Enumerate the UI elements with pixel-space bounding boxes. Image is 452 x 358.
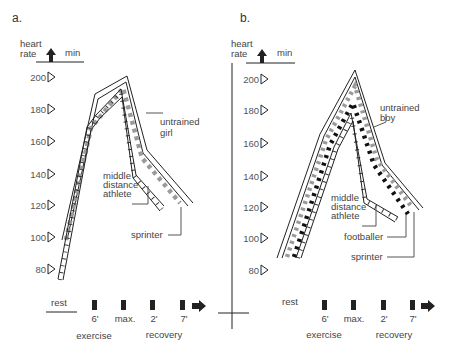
- svg-text:recovery: recovery: [146, 329, 183, 340]
- leader-sprinter-a: [168, 207, 181, 235]
- marker-2min-b: [381, 300, 386, 310]
- tick-marker-icon: [48, 72, 55, 82]
- svg-text:6': 6': [321, 313, 328, 324]
- tick-marker-icon: [261, 105, 268, 115]
- svg-text:max.: max.: [344, 313, 365, 324]
- marker-7min: [180, 300, 185, 310]
- marker-max: [121, 300, 126, 310]
- series-untrained-boy: [277, 70, 423, 258]
- y-ticks: 200 180 160 140 120 100 80: [30, 72, 55, 275]
- label-untrained-girl-2: girl: [160, 127, 173, 138]
- timeline-a: rest 6' max. 2' 7' exercise recovery: [46, 297, 206, 341]
- label-footballer: footballer: [344, 231, 383, 242]
- svg-text:80: 80: [35, 264, 46, 275]
- panel-a: a. heart rate min 200 180 160 140 120 10…: [12, 11, 206, 341]
- tick-marker-icon: [48, 200, 55, 210]
- panel-a-label: a.: [12, 11, 22, 25]
- ylabel-rate: rate: [20, 48, 36, 59]
- svg-text:7': 7': [409, 313, 416, 324]
- svg-text:rest: rest: [51, 297, 67, 308]
- marker-max-b: [351, 300, 356, 310]
- tick-marker-icon: [261, 138, 268, 148]
- svg-text:rest: rest: [282, 296, 298, 307]
- svg-text:180: 180: [30, 104, 46, 115]
- panel-b-label: b.: [240, 11, 250, 25]
- svg-text:180: 180: [243, 105, 259, 116]
- tick-marker-icon: [261, 233, 268, 243]
- svg-text:80: 80: [248, 265, 259, 276]
- up-arrow-icon: [257, 49, 267, 63]
- tick-marker-icon: [48, 136, 55, 146]
- marker-2min: [150, 300, 155, 310]
- marker-6min-b: [322, 300, 327, 310]
- label-sprinter-a: sprinter: [131, 229, 163, 240]
- marker-6min: [92, 300, 97, 310]
- tick-marker-icon: [48, 169, 55, 179]
- svg-text:exercise: exercise: [76, 330, 111, 341]
- up-arrow-icon: [46, 48, 56, 62]
- svg-text:7': 7': [180, 313, 187, 324]
- svg-text:max.: max.: [115, 313, 136, 324]
- svg-text:6': 6': [91, 313, 98, 324]
- label-untrained-girl-1: untrained: [160, 116, 200, 127]
- svg-text:exercise: exercise: [306, 329, 341, 340]
- tick-marker-icon: [48, 232, 55, 242]
- tick-marker-icon: [48, 264, 55, 274]
- svg-text:200: 200: [243, 74, 259, 85]
- tick-marker-icon: [261, 265, 268, 275]
- svg-text:2': 2': [380, 313, 387, 324]
- heart-rate-diagram: a. heart rate min 200 180 160 140 120 10…: [0, 0, 452, 358]
- tick-marker-icon: [261, 202, 268, 212]
- arrow-right-icon: [421, 300, 435, 312]
- y-ticks-b: 200 180 160 140 120 100 80: [243, 74, 268, 276]
- series-sprinter-a: [66, 88, 180, 240]
- tick-marker-icon: [48, 104, 55, 114]
- tick-marker-icon: [261, 74, 268, 84]
- svg-text:recovery: recovery: [376, 329, 413, 340]
- svg-text:120: 120: [30, 200, 46, 211]
- svg-text:200: 200: [30, 72, 46, 83]
- label-mda-a-3: athlete: [103, 188, 132, 199]
- label-sprinter-b: sprinter: [351, 251, 383, 262]
- tick-marker-icon: [261, 171, 268, 181]
- svg-text:100: 100: [243, 233, 259, 244]
- xlabel-min: min: [65, 47, 80, 58]
- svg-text:160: 160: [243, 138, 259, 149]
- arrow-right-icon: [192, 300, 206, 312]
- leader-footballer: [387, 214, 406, 237]
- svg-text:160: 160: [30, 136, 46, 147]
- label-untrained-boy-2: boy: [380, 112, 396, 123]
- timeline-b: rest 6' max. 2' 7' exercise recovery: [282, 296, 435, 340]
- svg-text:140: 140: [30, 169, 46, 180]
- ylabel-rate-b: rate: [231, 48, 247, 59]
- svg-text:100: 100: [30, 232, 46, 243]
- marker-7min-b: [410, 300, 415, 310]
- svg-text:120: 120: [243, 202, 259, 213]
- label-mda-b-3: athlete: [331, 210, 360, 221]
- svg-text:140: 140: [243, 171, 259, 182]
- leader-sprinter-b: [387, 212, 414, 257]
- xlabel-min-b: min: [277, 47, 292, 58]
- svg-text:2': 2': [150, 313, 157, 324]
- panel-b: b. heart rate min 200 180 160 140 120 10…: [231, 11, 435, 340]
